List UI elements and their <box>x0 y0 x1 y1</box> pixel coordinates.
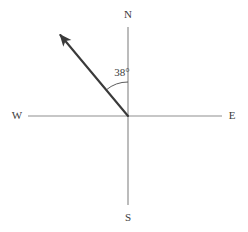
compass-diagram-canvas: N S W E 38° <box>0 0 248 232</box>
south-label: S <box>125 211 131 223</box>
east-label: E <box>229 109 236 121</box>
compass-diagram: N S W E 38° <box>0 0 248 232</box>
west-label: W <box>12 109 23 121</box>
angle-arc <box>106 82 128 90</box>
angle-value-label: 38° <box>114 66 129 78</box>
north-label: N <box>124 8 132 20</box>
